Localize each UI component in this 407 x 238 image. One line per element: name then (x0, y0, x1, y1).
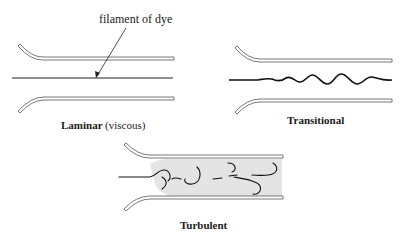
turbulent-bottom-pipe-wall (124, 196, 283, 211)
turbulent-caption: Turbulent (180, 219, 227, 231)
laminar-caption-sub: (viscous) (105, 119, 145, 131)
transitional-panel (229, 46, 392, 114)
laminar-caption-main: Laminar (61, 119, 102, 131)
laminar-caption: Laminar (viscous) (61, 119, 145, 131)
laminar-top-pipe-wall (18, 44, 174, 60)
annotation-label: filament of dye (99, 12, 172, 27)
transitional-top-pipe-wall (235, 46, 392, 62)
laminar-panel (12, 28, 174, 113)
turbulent-panel (119, 143, 283, 211)
transitional-caption: Transitional (287, 114, 344, 126)
annotation-arrow (97, 28, 126, 76)
turbulent-top-pipe-wall (124, 143, 283, 158)
transitional-bottom-pipe-wall (235, 99, 392, 114)
laminar-bottom-pipe-wall (18, 97, 174, 113)
transitional-dye-filament (229, 74, 392, 84)
